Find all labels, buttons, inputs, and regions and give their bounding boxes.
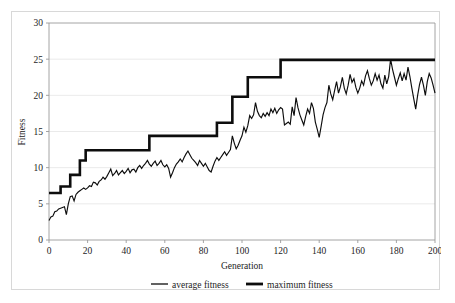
x-tick-label: 20 (83, 246, 93, 256)
legend-label-maximum-fitness: maximum fitness (267, 280, 333, 290)
x-tick-label: 0 (47, 246, 52, 256)
y-tick-label: 20 (34, 91, 44, 101)
y-tick-label: 30 (34, 18, 44, 28)
y-tick-label: 25 (34, 55, 44, 65)
x-tick-label: 120 (273, 246, 288, 256)
chart-figure: 051015202530 020406080100120140160180200… (11, 11, 440, 290)
fitness-line-chart: 051015202530 020406080100120140160180200… (12, 12, 441, 291)
chart-legend: average fitness maximum fitness (151, 280, 333, 290)
x-tick-label: 160 (351, 246, 366, 256)
x-axis-title: Generation (221, 261, 263, 271)
x-tick-label: 200 (428, 246, 441, 256)
y-axis-tick-labels: 051015202530 (34, 18, 44, 245)
x-tick-label: 140 (312, 246, 327, 256)
x-tick-label: 40 (121, 246, 131, 256)
y-tick-label: 10 (34, 163, 44, 173)
y-tick-label: 15 (34, 127, 44, 137)
y-tick-label: 0 (38, 235, 43, 245)
x-axis-tick-labels: 020406080100120140160180200 (47, 246, 441, 256)
y-tick-label: 5 (38, 199, 43, 209)
legend-label-average-fitness: average fitness (172, 280, 229, 290)
y-axis-title: Fitness (17, 118, 27, 145)
x-tick-label: 60 (160, 246, 170, 256)
x-tick-label: 80 (199, 246, 209, 256)
x-tick-label: 180 (389, 246, 404, 256)
x-tick-label: 100 (235, 246, 250, 256)
